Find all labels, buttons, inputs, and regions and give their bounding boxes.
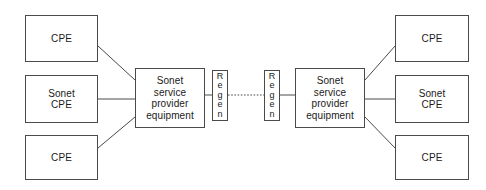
node-label-cpe-left-bottom: CPE: [51, 152, 72, 164]
node-regen-right[interactable]: R e g e n: [264, 70, 280, 121]
node-cpe-right-top[interactable]: CPE: [395, 15, 469, 62]
node-cpe-left-bottom[interactable]: CPE: [25, 135, 98, 180]
node-label-cpe-left-top: CPE: [51, 33, 72, 45]
node-cpe-right-bottom[interactable]: CPE: [395, 135, 469, 180]
node-sonet-cpe-left[interactable]: Sonet CPE: [25, 75, 98, 123]
node-sonet-equipment-right[interactable]: Sonet service provider equipment: [295, 68, 365, 128]
node-regen-left[interactable]: R e g e n: [212, 70, 228, 121]
connector-link-cpe-left-bottom: [98, 117, 135, 148]
node-label-sonet-cpe-right: Sonet CPE: [419, 88, 446, 111]
node-label-sonet-equipment-right: Sonet service provider equipment: [306, 75, 354, 121]
node-label-sonet-cpe-left: Sonet CPE: [48, 88, 75, 111]
node-cpe-left-top[interactable]: CPE: [25, 15, 98, 62]
node-sonet-cpe-right[interactable]: Sonet CPE: [395, 75, 469, 123]
node-label-sonet-equipment-left: Sonet service provider equipment: [146, 75, 194, 121]
connector-link-cpe-right-bottom: [365, 117, 395, 148]
connector-link-cpe-right-top: [365, 46, 395, 80]
node-sonet-equipment-left[interactable]: Sonet service provider equipment: [135, 68, 205, 128]
node-label-regen-right: R e g e n: [269, 72, 276, 120]
node-label-cpe-right-top: CPE: [422, 33, 443, 45]
node-label-cpe-right-bottom: CPE: [422, 152, 443, 164]
network-diagram: CPESonet CPECPESonet service provider eq…: [0, 0, 486, 190]
connector-link-cpe-left-top: [98, 46, 135, 80]
node-label-regen-left: R e g e n: [217, 72, 224, 120]
